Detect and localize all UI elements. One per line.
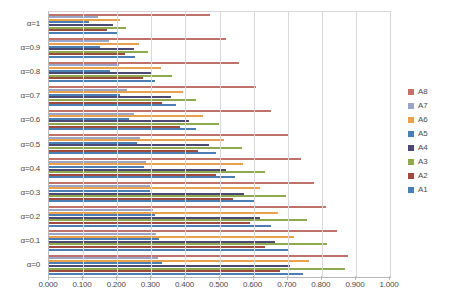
x-axis-tick-label: 0.300 xyxy=(141,280,160,289)
legend-item-a4[interactable]: A4 xyxy=(408,141,454,155)
y-axis-tick-label: α=0.7 xyxy=(21,91,40,100)
y-axis-tick-label: α=0.2 xyxy=(21,211,40,220)
bar xyxy=(49,80,155,82)
x-axis-tick-label: 0.700 xyxy=(277,280,296,289)
bar-groups xyxy=(49,12,390,277)
bar xyxy=(49,200,254,202)
legend-swatch-icon xyxy=(408,145,414,151)
legend-swatch-icon xyxy=(408,187,414,193)
legend-label: A6 xyxy=(418,116,428,124)
gridline xyxy=(390,12,391,277)
y-axis-tick-label: α=0.3 xyxy=(21,187,40,196)
x-axis-tick-label: 0.000 xyxy=(38,280,57,289)
x-axis-tick-label: 0.500 xyxy=(209,280,228,289)
plot-area xyxy=(48,11,391,278)
bar-group xyxy=(49,181,390,205)
y-axis-tick-label: α=0.4 xyxy=(21,163,40,172)
bar-group xyxy=(49,205,390,229)
legend-label: A2 xyxy=(418,172,428,180)
x-axis-tick-label: 0.100 xyxy=(73,280,92,289)
x-axis-tick-label: 1.000 xyxy=(379,280,398,289)
x-axis-tick-label: 0.400 xyxy=(175,280,194,289)
legend-label: A4 xyxy=(418,144,428,152)
legend-label: A7 xyxy=(418,102,428,110)
bar-group xyxy=(49,60,390,84)
bar xyxy=(49,249,288,251)
y-axis-tick-label: α=0.5 xyxy=(21,139,40,148)
legend-item-a7[interactable]: A7 xyxy=(408,99,454,113)
y-axis-tick-label: α=0.1 xyxy=(21,235,40,244)
x-axis-tick-label: 0.200 xyxy=(107,280,126,289)
legend-swatch-icon xyxy=(408,117,414,123)
legend-label: A8 xyxy=(418,88,428,96)
y-axis-tick-label: α=0 xyxy=(27,259,40,268)
y-axis: α=1α=0.9α=0.8α=0.7α=0.6α=0.5α=0.4α=0.3α=… xyxy=(0,11,44,276)
legend-swatch-icon xyxy=(408,131,414,137)
bar xyxy=(49,176,235,178)
legend-item-a6[interactable]: A6 xyxy=(408,113,454,127)
legend-item-a8[interactable]: A8 xyxy=(408,85,454,99)
bar-group xyxy=(49,36,390,60)
y-axis-tick-label: α=0.8 xyxy=(21,67,40,76)
bar xyxy=(49,104,176,106)
bar-chart: α=1α=0.9α=0.8α=0.7α=0.6α=0.5α=0.4α=0.3α=… xyxy=(0,0,454,303)
bar-group xyxy=(49,253,390,277)
x-axis: 0.0000.1000.2000.3000.4000.5000.6000.700… xyxy=(48,280,389,296)
bar xyxy=(49,225,271,227)
x-axis-tick-label: 0.600 xyxy=(243,280,262,289)
legend-item-a3[interactable]: A3 xyxy=(408,155,454,169)
bar-group xyxy=(49,84,390,108)
legend-label: A1 xyxy=(418,186,428,194)
x-axis-tick-label: 0.900 xyxy=(345,280,364,289)
bar-group xyxy=(49,229,390,253)
y-axis-tick-label: α=0.6 xyxy=(21,115,40,124)
legend-item-a2[interactable]: A2 xyxy=(408,169,454,183)
legend-item-a5[interactable]: A5 xyxy=(408,127,454,141)
legend-swatch-icon xyxy=(408,159,414,165)
legend-swatch-icon xyxy=(408,89,414,95)
chart-legend: A8A7A6A5A4A3A2A1 xyxy=(408,85,454,197)
legend-label: A3 xyxy=(418,158,428,166)
legend-label: A5 xyxy=(418,130,428,138)
bar xyxy=(49,152,216,154)
legend-swatch-icon xyxy=(408,173,414,179)
bar-group xyxy=(49,12,390,36)
bar xyxy=(49,56,135,58)
legend-swatch-icon xyxy=(408,103,414,109)
bar-group xyxy=(49,157,390,181)
x-axis-tick-label: 0.800 xyxy=(311,280,330,289)
y-axis-tick-label: α=0.9 xyxy=(21,43,40,52)
bar-group xyxy=(49,108,390,132)
y-axis-tick-label: α=1 xyxy=(27,19,40,28)
bar xyxy=(49,273,303,275)
bar-group xyxy=(49,132,390,156)
legend-item-a1[interactable]: A1 xyxy=(408,183,454,197)
bar xyxy=(49,32,117,34)
bar xyxy=(49,128,196,130)
